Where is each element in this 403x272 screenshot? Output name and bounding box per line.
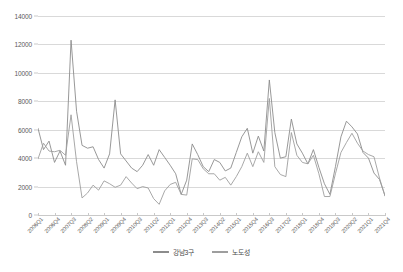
y-axis-tick-label: 2000	[0, 183, 32, 190]
x-axis-tick-mark	[286, 213, 287, 216]
x-axis-tick-mark	[253, 213, 254, 216]
y-axis-tick-mark	[34, 44, 38, 45]
x-axis-tick-label: 2012Q4	[175, 216, 193, 234]
x-axis-tick-label: 2016Q3	[257, 216, 275, 234]
legend-line-icon	[153, 251, 169, 253]
x-axis-tick-mark	[38, 213, 39, 216]
x-axis-tick-label: 2021Q1	[357, 216, 375, 234]
legend-item[interactable]: 노도성	[212, 247, 250, 257]
x-axis-tick-mark	[269, 213, 270, 216]
series-line	[38, 98, 385, 204]
x-axis-tick-mark	[187, 213, 188, 216]
x-axis-tick-label: 2015Q1	[224, 216, 242, 234]
legend-label: 강남3구	[173, 247, 195, 257]
x-axis-tick-label: 2006Q1	[26, 216, 44, 234]
x-axis-tick-label: 2010Q3	[125, 216, 143, 234]
x-axis-tick-label: 2013Q3	[191, 216, 209, 234]
x-axis-tick-mark	[220, 213, 221, 216]
x-axis-tick-mark	[302, 213, 303, 216]
y-axis-tick-label: 12000	[0, 41, 32, 48]
x-axis-tick-label: 2011Q2	[142, 216, 160, 234]
legend-line-icon	[212, 251, 228, 253]
x-axis-tick-mark	[104, 213, 105, 216]
legend-label: 노도성	[232, 247, 250, 257]
y-axis-tick-mark	[34, 101, 38, 102]
x-axis-tick-mark	[236, 213, 237, 216]
y-axis-tick-mark	[34, 129, 38, 130]
x-axis-tick-mark	[335, 213, 336, 216]
chart-legend: 강남3구노도성	[0, 247, 403, 257]
x-axis-tick-mark	[137, 213, 138, 216]
x-axis-tick-mark	[368, 213, 369, 216]
x-axis-tick-mark	[55, 213, 56, 216]
series-line	[38, 40, 385, 196]
x-axis-tick-label: 2020Q2	[340, 216, 358, 234]
x-axis-tick-label: 2007Q3	[59, 216, 77, 234]
x-axis-tick-label: 2009Q1	[92, 216, 110, 234]
x-axis-tick-label: 2012Q1	[158, 216, 176, 234]
y-axis-tick-mark	[34, 72, 38, 73]
y-axis-tick-label: 0	[0, 212, 32, 219]
x-axis-tick-mark	[385, 213, 386, 216]
x-axis-tick-label: 2006Q4	[43, 216, 61, 234]
legend-item[interactable]: 강남3구	[153, 247, 195, 257]
x-axis-tick-mark	[154, 213, 155, 216]
x-axis-tick-label: 2018Q4	[307, 216, 325, 234]
x-axis-tick-label: 2009Q4	[109, 216, 127, 234]
x-axis-tick-label: 2021Q4	[373, 216, 391, 234]
x-axis-tick-mark	[71, 213, 72, 216]
x-axis-tick-mark	[88, 213, 89, 216]
chart-container: 02000400060008000100001200014000 2006Q12…	[0, 0, 403, 272]
y-axis-tick-label: 14000	[0, 13, 32, 20]
x-axis-tick-label: 2018Q1	[291, 216, 309, 234]
x-axis-tick-mark	[203, 213, 204, 216]
x-axis-tick-mark	[170, 213, 171, 216]
x-axis-tick-label: 2015Q4	[241, 216, 259, 234]
x-axis-tick-label: 2019Q3	[324, 216, 342, 234]
x-axis-tick-label: 2017Q2	[274, 216, 292, 234]
y-axis-tick-label: 6000	[0, 126, 32, 133]
x-axis-tick-label: 2014Q2	[208, 216, 226, 234]
x-axis-tick-mark	[121, 213, 122, 216]
y-axis-tick-mark	[34, 186, 38, 187]
x-axis-tick-label: 2008Q2	[76, 216, 94, 234]
plot-area	[38, 16, 385, 215]
y-axis-tick-label: 4000	[0, 155, 32, 162]
x-axis-tick-mark	[352, 213, 353, 216]
y-axis-tick-mark	[34, 158, 38, 159]
y-axis-tick-label: 10000	[0, 69, 32, 76]
y-axis-tick-label: 8000	[0, 98, 32, 105]
y-axis-tick-mark	[34, 16, 38, 17]
series-lines	[38, 16, 385, 215]
x-axis-tick-mark	[319, 213, 320, 216]
